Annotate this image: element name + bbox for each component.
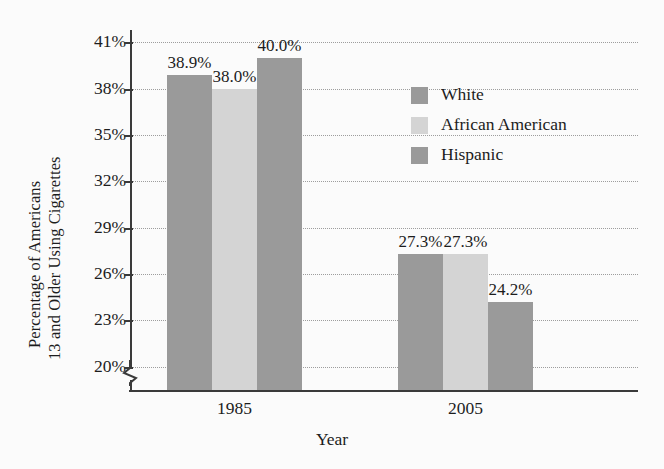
bar-value-label: 40.0%	[250, 37, 310, 54]
legend-item[interactable]: White	[411, 80, 641, 110]
y-axis-tick-label: 38%	[62, 80, 126, 98]
x-axis-tick-label: 1985	[190, 398, 280, 419]
legend-label: African American	[441, 116, 567, 134]
y-axis-tick-label: 35%	[62, 126, 126, 144]
y-axis-tick-label: 20%	[62, 358, 126, 376]
bar	[167, 75, 212, 390]
bar-chart: Percentage of Americans 13 and Older Usi…	[0, 0, 664, 469]
y-axis-tick-label: 23%	[62, 311, 126, 329]
x-axis-title: Year	[0, 429, 664, 450]
y-axis-line	[130, 30, 132, 369]
y-axis-title: Percentage of Americans 13 and Older Usi…	[0, 0, 60, 400]
y-axis-title-line-1: Percentage of Americans	[25, 181, 45, 348]
x-axis-tick-label: 2005	[421, 398, 511, 419]
legend-label: Hispanic	[441, 146, 503, 164]
legend: WhiteAfrican AmericanHispanic	[411, 80, 641, 170]
bar	[398, 254, 443, 390]
bar-value-label: 27.3%	[436, 233, 496, 250]
legend-label: White	[441, 86, 484, 104]
bar	[443, 254, 488, 390]
legend-item[interactable]: Hispanic	[411, 140, 641, 170]
y-axis-tick-label: 41%	[62, 33, 126, 51]
y-axis-tick-label: 26%	[62, 265, 126, 283]
bar-value-label: 24.2%	[481, 281, 541, 298]
bar-value-label: 38.0%	[205, 68, 265, 85]
gridline	[131, 42, 638, 43]
y-axis-tick-labels: 20%23%26%29%32%35%38%41%	[56, 0, 126, 400]
bar	[212, 89, 257, 390]
y-axis-tick-label: 29%	[62, 219, 126, 237]
legend-swatch-icon	[411, 147, 428, 164]
bar	[488, 302, 533, 390]
bar	[257, 58, 302, 390]
y-axis-tick-label: 32%	[62, 172, 126, 190]
legend-swatch-icon	[411, 117, 428, 134]
axis-break-icon	[122, 360, 140, 386]
legend-item[interactable]: African American	[411, 110, 641, 140]
x-axis-line	[129, 390, 638, 392]
legend-swatch-icon	[411, 87, 428, 104]
